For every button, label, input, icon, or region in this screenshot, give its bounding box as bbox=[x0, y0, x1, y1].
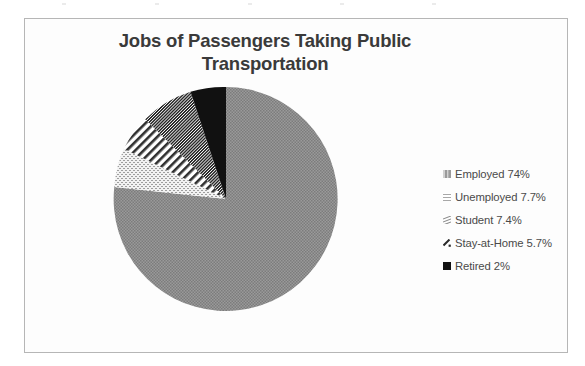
legend-item-student: Student 7.4% bbox=[443, 209, 563, 231]
legend-label-unemployed: Unemployed 7.7% bbox=[455, 191, 546, 203]
chart-title-line-1: Jobs of Passengers Taking Public bbox=[55, 29, 475, 52]
legend-swatch-stay-at-home-icon bbox=[443, 239, 451, 247]
legend-item-employed: Employed 74% bbox=[443, 163, 563, 185]
chart-legend: Employed 74% Unemployed 7.7% Student 7.4… bbox=[443, 163, 563, 278]
legend-swatch-unemployed-icon bbox=[443, 193, 451, 201]
chart-title-line-2: Transportation bbox=[55, 52, 475, 75]
legend-label-student: Student 7.4% bbox=[455, 214, 522, 226]
pie-chart bbox=[113, 86, 339, 312]
legend-swatch-retired-icon bbox=[443, 262, 451, 270]
legend-swatch-employed-icon bbox=[443, 170, 451, 178]
scan-artifacts bbox=[0, 0, 585, 14]
legend-label-employed: Employed 74% bbox=[455, 168, 530, 180]
legend-label-stay-at-home: Stay-at-Home 5.7% bbox=[455, 237, 552, 249]
legend-swatch-student-icon bbox=[443, 216, 451, 224]
legend-item-retired: Retired 2% bbox=[443, 255, 563, 277]
chart-title: Jobs of Passengers Taking Public Transpo… bbox=[55, 29, 475, 76]
legend-item-unemployed: Unemployed 7.7% bbox=[443, 186, 563, 208]
legend-item-stay-at-home: Stay-at-Home 5.7% bbox=[443, 232, 563, 254]
chart-frame: Jobs of Passengers Taking Public Transpo… bbox=[24, 18, 568, 353]
pie-chart-svg bbox=[113, 86, 339, 312]
legend-label-retired: Retired 2% bbox=[455, 260, 510, 272]
